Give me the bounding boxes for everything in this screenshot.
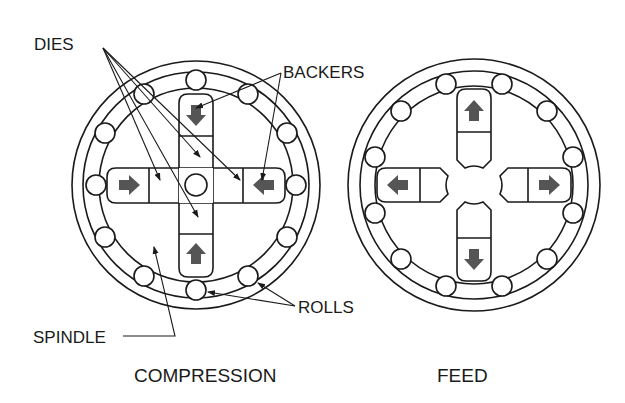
swaging-diagram: DIES BACKERS ROLLS SPINDLE COMPRESSION [0,0,625,403]
spindle-label: SPINDLE [33,328,106,347]
dies-label: DIES [34,35,74,54]
rolls-label: ROLLS [298,298,354,317]
workpiece [185,174,207,196]
compression-panel: DIES BACKERS ROLLS SPINDLE COMPRESSION [33,35,364,386]
feed-panel: FEED [348,59,600,386]
feed-caption: FEED [437,365,488,386]
backers-label: BACKERS [283,63,364,82]
compression-caption: COMPRESSION [134,365,277,386]
